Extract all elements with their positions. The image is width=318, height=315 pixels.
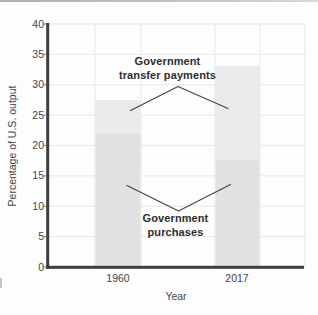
annotation-line-1: Government — [102, 55, 233, 69]
x-tick-label-2017: 2017 — [217, 272, 257, 284]
bar-segment-1960-government-transfer-payments — [96, 100, 141, 133]
y-tick-label-15: 15 — [18, 169, 44, 182]
annotation-government-transfer-payments: Government transfer payments — [102, 55, 233, 82]
y-tick-mark-35 — [44, 54, 46, 55]
stacked-bar-chart-figure: 0510152025303540 Percentage of U.S. outp… — [0, 0, 318, 315]
y-tick-label-30: 30 — [18, 78, 44, 91]
annotation-pointer-transfers — [131, 87, 229, 111]
y-tick-mark-5 — [44, 236, 46, 237]
bar-segment-1960-government-purchases — [96, 133, 141, 267]
y-tick-mark-20 — [44, 145, 46, 146]
y-tick-label-20: 20 — [18, 139, 44, 152]
x-axis-line — [46, 266, 304, 269]
y-tick-label-35: 35 — [18, 48, 44, 61]
y-axis-line — [46, 23, 49, 269]
x-axis-title: Year — [156, 290, 196, 302]
y-axis-title: Percentage of U.S. output — [6, 66, 20, 226]
y-tick-mark-15 — [44, 175, 46, 176]
y-tick-mark-30 — [44, 84, 46, 85]
y-tick-label-0: 0 — [18, 261, 44, 274]
y-tick-label-5: 5 — [18, 230, 44, 243]
annotation-line-1: Government — [110, 212, 241, 226]
annotation-line-2: transfer payments — [102, 69, 233, 83]
chart-canvas — [0, 0, 318, 315]
annotation-government-purchases: Government purchases — [110, 212, 241, 239]
y-tick-mark-10 — [44, 206, 46, 207]
y-tick-label-40: 40 — [18, 18, 44, 31]
annotation-line-2: purchases — [110, 226, 241, 240]
y-tick-label-10: 10 — [18, 200, 44, 213]
y-tick-label-25: 25 — [18, 109, 44, 122]
y-tick-mark-25 — [44, 115, 46, 116]
x-tick-label-1960: 1960 — [98, 272, 138, 284]
y-tick-mark-0 — [44, 266, 46, 267]
y-tick-mark-40 — [44, 23, 46, 24]
